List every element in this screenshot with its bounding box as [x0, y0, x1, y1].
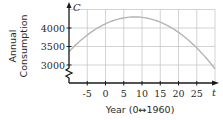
y-tick-label: 3500: [41, 41, 65, 52]
x-ticks: -50510152025: [83, 81, 203, 99]
y-tick-label: 3000: [41, 60, 65, 71]
y-axis-title: Annual Consumption: [7, 15, 29, 78]
x-tick-label: -5: [83, 88, 92, 99]
chart: -50510152025 300035004000 C t Year (0↔19…: [0, 0, 223, 120]
x-tick-label: 0: [102, 88, 108, 99]
x-variable-label: t: [212, 87, 217, 98]
y-axis-title-line1: Annual: [7, 29, 18, 62]
y-axis-title-line2: Consumption: [18, 15, 29, 78]
grid: [69, 10, 215, 84]
y-variable-label: C: [73, 2, 81, 13]
axes: [66, 2, 219, 86]
x-tick-label: 25: [191, 88, 203, 99]
x-tick-label: 10: [136, 88, 148, 99]
y-axis-arrow-icon: [67, 2, 72, 8]
x-tick-label: 5: [121, 88, 127, 99]
y-axis: [66, 6, 72, 83]
x-tick-label: 15: [154, 88, 166, 99]
x-axis-title: Year (0↔1960): [105, 104, 175, 115]
y-tick-label: 4000: [41, 23, 65, 34]
x-axis-arrow-icon: [212, 81, 219, 86]
x-tick-label: 20: [172, 88, 184, 99]
y-ticks: 300035004000: [41, 23, 72, 71]
